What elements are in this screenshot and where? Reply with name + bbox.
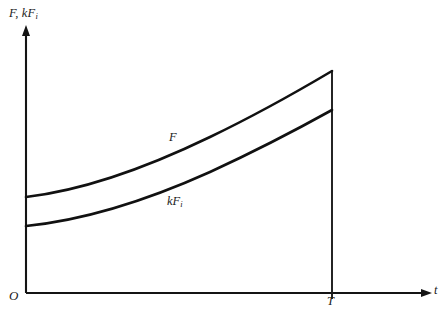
y-axis-label: F, kFi [9, 7, 38, 20]
x-axis-arrow-icon [421, 289, 432, 297]
curve-label-f: F [169, 131, 177, 144]
curve-label-kfi: kFi [167, 195, 183, 208]
y-axis-label-subscript: i [35, 11, 38, 21]
origin-label: O [9, 289, 18, 302]
curve-lower-kfi [26, 110, 332, 226]
curve-label-kfi-subscript: i [180, 199, 182, 209]
y-axis-arrow-icon [22, 25, 30, 36]
x-tick-label-t: T [327, 295, 334, 308]
figure-canvas: F, kFi t O T F kFi [0, 0, 445, 321]
x-axis-label: t [434, 284, 437, 297]
figure-drawing [0, 0, 445, 321]
y-axis-label-text: F, kF [9, 6, 35, 20]
curve-label-kfi-text: kF [167, 194, 180, 208]
